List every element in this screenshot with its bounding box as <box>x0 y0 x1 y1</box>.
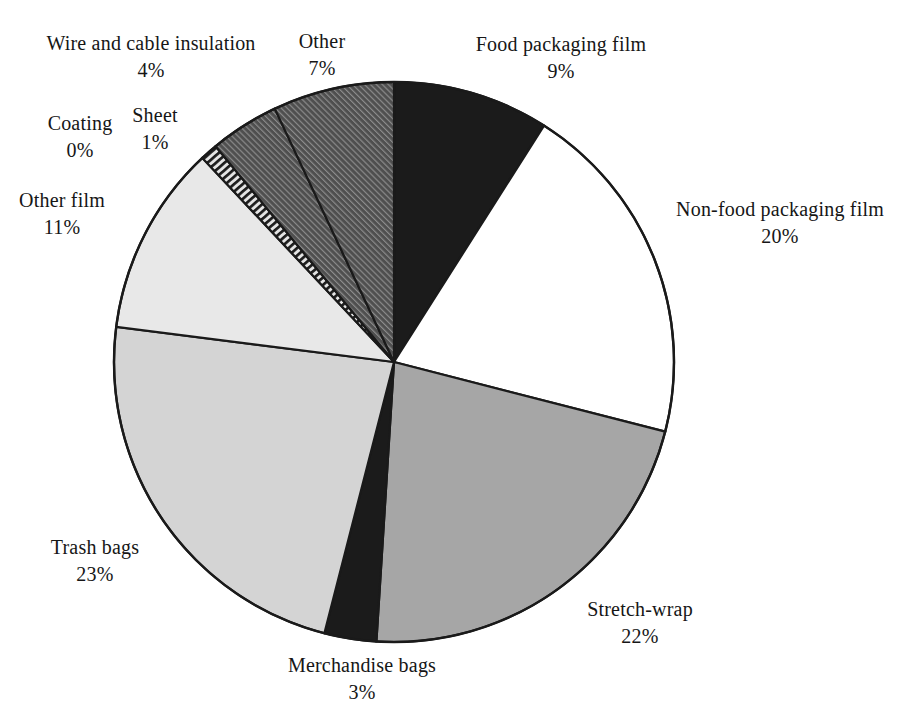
label-percent: 9% <box>446 58 676 85</box>
label-text: Stretch-wrap <box>540 596 740 623</box>
label-percent: 7% <box>252 55 392 82</box>
label-text: Merchandise bags <box>247 652 477 679</box>
label-stretch-wrap: Stretch-wrap 22% <box>540 596 740 650</box>
label-merchandise-bags: Merchandise bags 3% <box>247 652 477 706</box>
label-text: Other <box>252 28 392 55</box>
label-percent: 20% <box>660 223 900 250</box>
label-text: Food packaging film <box>446 31 676 58</box>
label-other: Other 7% <box>252 28 392 82</box>
label-percent: 3% <box>247 679 477 706</box>
label-other-film: Other film 11% <box>0 187 124 241</box>
label-text: Wire and cable insulation <box>11 30 291 57</box>
label-percent: 4% <box>11 57 291 84</box>
label-percent: 22% <box>540 623 740 650</box>
label-text: Sheet <box>105 102 205 129</box>
label-trash-bags: Trash bags 23% <box>10 534 180 588</box>
label-sheet: Sheet 1% <box>105 102 205 156</box>
label-food-packaging-film: Food packaging film 9% <box>446 31 676 85</box>
label-percent: 23% <box>10 561 180 588</box>
label-percent: 1% <box>105 129 205 156</box>
label-non-food-packaging-film: Non-food packaging film 20% <box>660 196 900 250</box>
label-percent: 11% <box>0 214 124 241</box>
pie-chart-figure: Wire and cable insulation 4% Other 7% Fo… <box>0 0 910 728</box>
label-text: Other film <box>0 187 124 214</box>
label-wire-and-cable-insulation: Wire and cable insulation 4% <box>11 30 291 84</box>
label-text: Trash bags <box>10 534 180 561</box>
label-text: Non-food packaging film <box>660 196 900 223</box>
pie-slices-group <box>114 82 674 642</box>
